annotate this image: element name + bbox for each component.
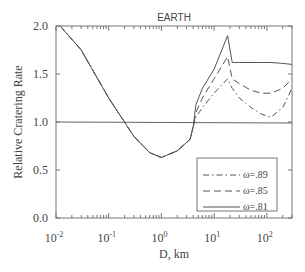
legend-label: ω=.81	[243, 201, 268, 212]
y-tick-label: 1.5	[33, 67, 48, 81]
x-tick-label: 10-1	[97, 230, 116, 245]
y-axis-label: Relative Cratering Rate	[11, 65, 25, 178]
cratering-rate-chart: EARTH 0.00.51.01.52.0 10-210-1100101102 …	[0, 0, 305, 272]
data-series	[60, 26, 292, 158]
x-axis-label: D, km	[159, 247, 190, 261]
x-axis: 10-210-1100101102	[45, 26, 292, 245]
legend-label: ω=.89	[243, 169, 268, 180]
y-tick-label: 1.0	[33, 115, 48, 129]
legend: ω=.89ω=.85ω=.81	[197, 158, 277, 212]
y-tick-label: 2.0	[33, 19, 48, 33]
y-tick-label: 0.5	[33, 163, 48, 177]
chart-title: EARTH	[157, 12, 191, 23]
x-tick-label: 102	[257, 230, 273, 245]
x-tick-label: 101	[204, 230, 220, 245]
reference-line-1.0	[56, 122, 292, 123]
x-tick-label: 10-2	[45, 230, 64, 245]
series-line	[60, 26, 292, 158]
legend-label: ω=.85	[243, 185, 268, 196]
y-tick-label: 0.0	[33, 211, 48, 225]
x-tick-label: 100	[151, 230, 167, 245]
